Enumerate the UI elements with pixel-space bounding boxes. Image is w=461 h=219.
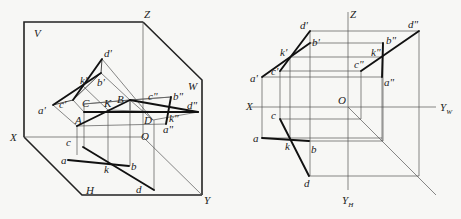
y-axis bbox=[143, 137, 202, 195]
label-X: X bbox=[245, 100, 254, 112]
label-X: X bbox=[9, 131, 18, 143]
label-b-prime: b' bbox=[312, 36, 321, 48]
label-d-dprime: d" bbox=[408, 18, 419, 30]
label-W: W bbox=[188, 80, 198, 92]
label-k-prime: k' bbox=[80, 74, 88, 86]
right-orthographic-diagram: Z X O YW YH d' b' k' c' a' d" b" k" c" a… bbox=[245, 8, 453, 209]
label-k-dprime: k" bbox=[371, 46, 381, 58]
label-YH: YH bbox=[342, 194, 354, 209]
label-Y: Y bbox=[204, 194, 212, 206]
label-O: O bbox=[338, 94, 346, 106]
label-d-prime: d' bbox=[300, 19, 309, 31]
label-B: B bbox=[117, 93, 124, 105]
label-Z: Z bbox=[144, 8, 151, 20]
label-c-prime: c' bbox=[271, 65, 279, 77]
label-b-dprime: b" bbox=[173, 90, 184, 102]
label-C: C bbox=[82, 97, 90, 109]
label-A: A bbox=[74, 114, 82, 126]
label-c-dprime: c" bbox=[354, 58, 364, 70]
label-b-prime: b' bbox=[97, 76, 106, 88]
label-b: b bbox=[131, 160, 137, 172]
label-a-dprime: a" bbox=[163, 123, 174, 135]
label-c-dprime: c" bbox=[148, 90, 158, 102]
label-c-prime: c' bbox=[59, 98, 67, 110]
label-c: c bbox=[271, 109, 276, 121]
label-c: c bbox=[66, 136, 71, 148]
left-pictorial-diagram: V Z W X O H Y d' k' b' a' c' C K B A D c… bbox=[9, 8, 212, 206]
label-b: b bbox=[311, 143, 317, 155]
label-a-prime: a' bbox=[38, 104, 47, 116]
label-k-prime: k' bbox=[280, 46, 288, 58]
label-K: K bbox=[103, 97, 112, 109]
45-degree-line bbox=[348, 107, 436, 195]
label-a: a bbox=[61, 154, 67, 166]
projection-diagram: V Z W X O H Y d' k' b' a' c' C K B A D c… bbox=[0, 0, 461, 219]
label-a-dprime: a" bbox=[384, 76, 395, 88]
label-d-prime: d' bbox=[104, 47, 113, 59]
label-a-prime: a' bbox=[250, 72, 259, 84]
label-d: d bbox=[304, 177, 310, 189]
label-D: D bbox=[143, 114, 152, 126]
label-d-dprime: d" bbox=[187, 99, 198, 111]
label-k: k bbox=[285, 140, 291, 152]
line-ab-side bbox=[382, 43, 383, 77]
label-O: O bbox=[141, 130, 149, 142]
line-ab-top bbox=[68, 160, 129, 166]
label-d: d bbox=[136, 183, 142, 195]
label-a: a bbox=[253, 132, 259, 144]
label-b-dprime: b" bbox=[386, 34, 397, 46]
label-Z: Z bbox=[350, 8, 357, 20]
label-H: H bbox=[85, 184, 95, 196]
label-YW: YW bbox=[440, 101, 453, 116]
label-V: V bbox=[34, 27, 42, 39]
